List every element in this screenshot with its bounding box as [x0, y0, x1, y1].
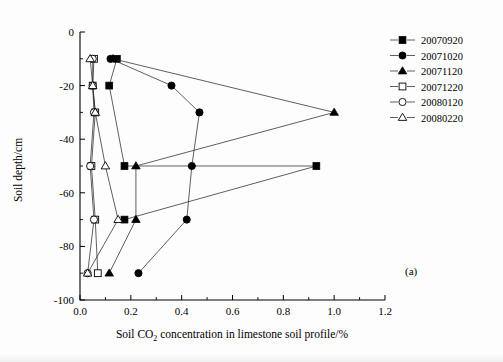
marker-filled-circle [135, 270, 142, 277]
figure-page: 0.00.20.40.60.81.01.20-20-40-60-80-100 2… [0, 0, 503, 362]
chart-figure: 0.00.20.40.60.81.01.20-20-40-60-80-100 2… [0, 0, 503, 362]
y-axis-title: Soil depth/cm [12, 138, 25, 202]
chart-svg: 0.00.20.40.60.81.01.20-20-40-60-80-100 2… [0, 0, 503, 362]
x-tick-label: 1.2 [378, 305, 392, 317]
y-tick-label: -60 [59, 187, 74, 199]
legend-label: 20071220 [421, 82, 463, 93]
x-tick-label: 0.4 [175, 305, 189, 317]
marker-filled-square [313, 163, 320, 170]
legend-label: 20070920 [421, 35, 463, 46]
legend-label: 20071020 [421, 51, 463, 62]
marker-filled-circle [188, 162, 195, 169]
y-tick-label: 0 [69, 26, 75, 38]
marker-filled-circle [196, 109, 203, 116]
x-tick-label: 0.8 [276, 305, 290, 317]
marker-open-square [399, 83, 406, 90]
marker-filled-square [121, 163, 128, 170]
marker-filled-square [399, 37, 406, 44]
legend-label: 20080120 [421, 97, 463, 108]
marker-open-circle [90, 216, 97, 223]
x-tick-label: 1.0 [327, 305, 341, 317]
legend-label: 20071120 [421, 66, 463, 77]
marker-open-square [94, 270, 101, 277]
y-tick-label: -40 [59, 133, 74, 145]
x-tick-label: 0.2 [124, 305, 138, 317]
marker-open-circle [399, 98, 406, 105]
marker-filled-circle [399, 52, 406, 59]
marker-open-circle [87, 162, 94, 169]
marker-filled-square [106, 82, 113, 89]
marker-filled-circle [183, 216, 190, 223]
legend-label: 20080220 [421, 113, 463, 124]
y-tick-label: -20 [59, 80, 74, 92]
y-tick-label: -80 [59, 240, 74, 252]
marker-filled-circle [168, 82, 175, 89]
y-tick-label: -100 [54, 294, 75, 306]
x-tick-label: 0.6 [226, 305, 240, 317]
x-tick-label: 0.0 [73, 305, 87, 317]
panel-label: (a) [405, 265, 418, 278]
